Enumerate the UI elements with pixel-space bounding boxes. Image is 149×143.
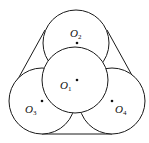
center-point-o1 [76,79,79,82]
circles-diagram: O1 O2 O3 O4 [0,0,149,143]
center-point-o4 [111,100,114,103]
center-point-o2 [76,42,79,45]
circle-o1 [42,47,108,113]
center-point-o3 [41,100,44,103]
